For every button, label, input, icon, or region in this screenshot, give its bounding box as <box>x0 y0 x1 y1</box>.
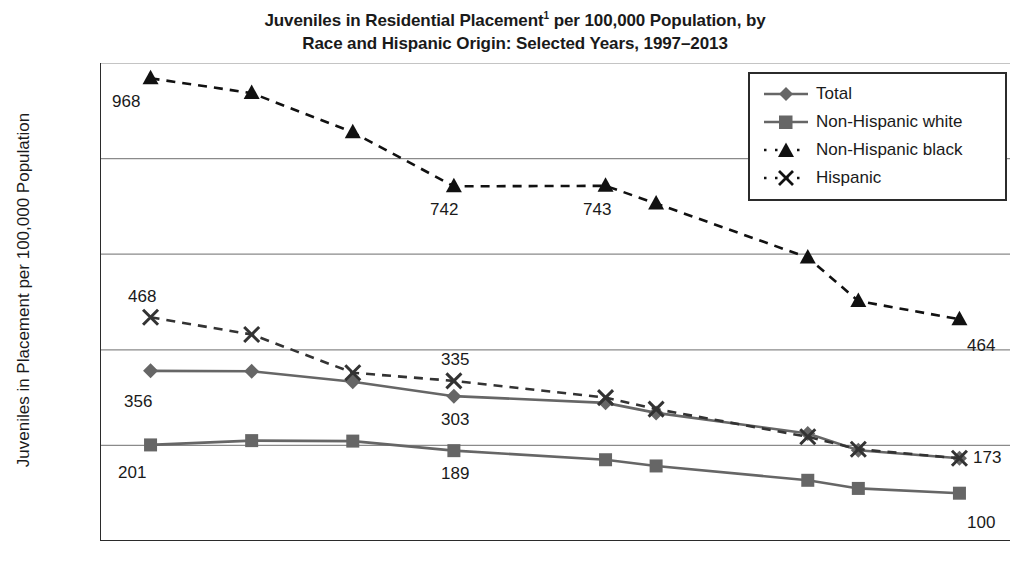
triangle-marker <box>762 140 810 160</box>
square-marker <box>762 112 810 132</box>
data-value-label: 335 <box>441 350 469 370</box>
data-value-label: 742 <box>430 200 458 220</box>
data-value-label: 743 <box>583 200 611 220</box>
series-hispanic <box>143 310 967 466</box>
series-line <box>151 441 960 494</box>
y-axis-label: Juveniles in Placement per 100,000 Popul… <box>14 40 34 540</box>
legend-label-non-hispanic-black: Non-Hispanic black <box>810 140 962 160</box>
chart-title-line-1: Juveniles in Residential Placement1 per … <box>0 4 1030 32</box>
data-value-label: 100 <box>967 513 995 533</box>
square-marker <box>144 438 157 451</box>
data-value-label: 356 <box>124 392 152 412</box>
square-marker <box>346 435 359 448</box>
chart-title-line-1-pre: Juveniles in Residential Placement <box>264 11 543 30</box>
square-marker <box>447 444 460 457</box>
triangle-marker <box>800 249 816 264</box>
series-line <box>151 317 960 458</box>
data-value-label: 968 <box>112 92 140 112</box>
triangle-marker <box>345 124 361 139</box>
triangle-marker <box>143 70 159 85</box>
chart-container: Juveniles in Residential Placement1 per … <box>0 0 1030 586</box>
chart-legend: Total Non-Hispanic white Non-Hispanic bl… <box>748 72 1007 201</box>
legend-label-total: Total <box>810 84 852 104</box>
legend-item-total[interactable]: Total <box>750 80 1005 108</box>
square-marker <box>801 474 814 487</box>
triangle-marker <box>446 178 462 193</box>
diamond-marker <box>244 364 259 379</box>
data-value-label: 201 <box>118 463 146 483</box>
legend-item-non-hispanic-white[interactable]: Non-Hispanic white <box>750 108 1005 136</box>
chart-title: Juveniles in Residential Placement1 per … <box>0 4 1030 55</box>
x-marker <box>762 168 810 188</box>
square-marker <box>599 453 612 466</box>
triangle-marker <box>648 195 664 210</box>
square-marker <box>245 434 258 447</box>
chart-title-line-2: Race and Hispanic Origin: Selected Years… <box>0 32 1030 55</box>
data-value-label: 303 <box>441 410 469 430</box>
series-total <box>143 363 967 465</box>
data-value-label: 464 <box>967 336 995 356</box>
diamond-marker <box>762 84 810 104</box>
square-marker <box>953 487 966 500</box>
data-value-label: 468 <box>128 287 156 307</box>
diamond-marker <box>143 363 158 378</box>
data-value-label: 173 <box>973 448 1001 468</box>
square-marker <box>650 459 663 472</box>
chart-title-line-1-post: per 100,000 Population, by <box>549 11 765 30</box>
legend-item-hispanic[interactable]: Hispanic <box>750 164 1005 192</box>
legend-label-hispanic: Hispanic <box>810 168 881 188</box>
square-marker <box>852 482 865 495</box>
diamond-marker <box>446 389 461 404</box>
data-value-label: 189 <box>441 464 469 484</box>
legend-label-non-hispanic-white: Non-Hispanic white <box>810 112 962 132</box>
legend-item-non-hispanic-black[interactable]: Non-Hispanic black <box>750 136 1005 164</box>
triangle-marker <box>850 293 866 308</box>
